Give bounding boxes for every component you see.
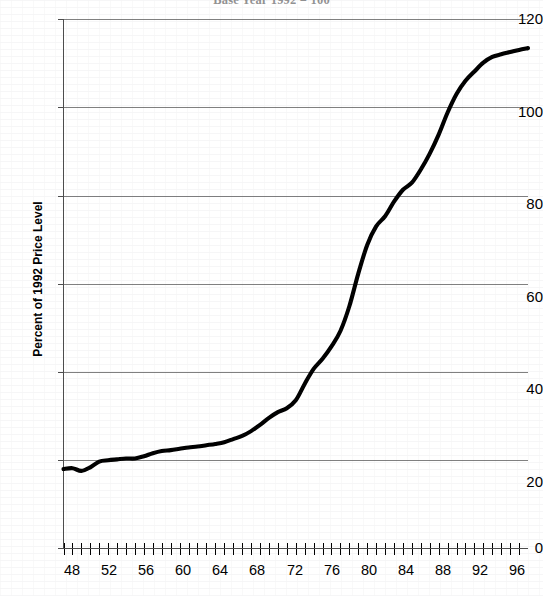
price-level-line-chart: Base Year 1992 = 100 Percent of 1992 Pri…	[0, 0, 543, 596]
chart-title: Base Year 1992 = 100	[0, 0, 543, 8]
x-tick-label-72: 72	[278, 563, 312, 578]
y-tick-label-80: 80	[497, 196, 543, 211]
x-tick-label-92: 92	[463, 563, 497, 578]
x-tick-label-76: 76	[315, 563, 349, 578]
plot-area	[0, 0, 543, 596]
x-tick-label-52: 52	[92, 563, 126, 578]
x-tick-label-88: 88	[426, 563, 460, 578]
x-tick-label-84: 84	[389, 563, 423, 578]
y-tick-label-100: 100	[497, 104, 543, 119]
y-tick-label-60: 60	[497, 289, 543, 304]
x-tick-label-48: 48	[55, 563, 89, 578]
y-tick-label-0: 0	[497, 540, 543, 555]
x-tick-label-80: 80	[352, 563, 386, 578]
y-axis-title: Percent of 1992 Price Level	[31, 169, 45, 389]
y-tick-label-20: 20	[497, 474, 543, 489]
gridlines	[64, 20, 529, 461]
x-tick-label-64: 64	[203, 563, 237, 578]
x-tick-label-96: 96	[500, 563, 534, 578]
x-tick-label-60: 60	[166, 563, 200, 578]
data-series-line	[64, 48, 529, 471]
x-tick-label-68: 68	[240, 563, 274, 578]
x-tick-label-56: 56	[129, 563, 163, 578]
axis-ticks	[58, 20, 520, 555]
y-tick-label-40: 40	[497, 381, 543, 396]
y-tick-label-120: 120	[497, 11, 543, 26]
